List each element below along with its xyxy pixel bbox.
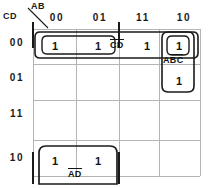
group-ad-term-a: A (68, 168, 75, 179)
group-abc-term-a: A (163, 55, 170, 65)
cell-r0-c3: 1 (159, 40, 199, 52)
group-cd-term-d: D (117, 39, 124, 50)
cell-r3-c1: 1 (78, 155, 118, 167)
cell-r1-c3: 1 (159, 75, 199, 87)
group-abc-term-b: B (170, 54, 177, 65)
group-label-ad: AD (68, 168, 82, 179)
group-abc-term-c: C (177, 54, 184, 65)
cell-r3-c0: 1 (35, 155, 75, 167)
group-ad-term-d: D (75, 168, 82, 179)
group-label-abc: ABC (163, 54, 183, 65)
cell-r0-c0: 1 (35, 40, 75, 52)
karnaugh-map-diagram: CD AB 00 01 11 10 00 01 11 10 (0, 0, 208, 188)
group-cd-term-c: C (110, 39, 117, 50)
group-label-cd: CD (110, 39, 124, 50)
